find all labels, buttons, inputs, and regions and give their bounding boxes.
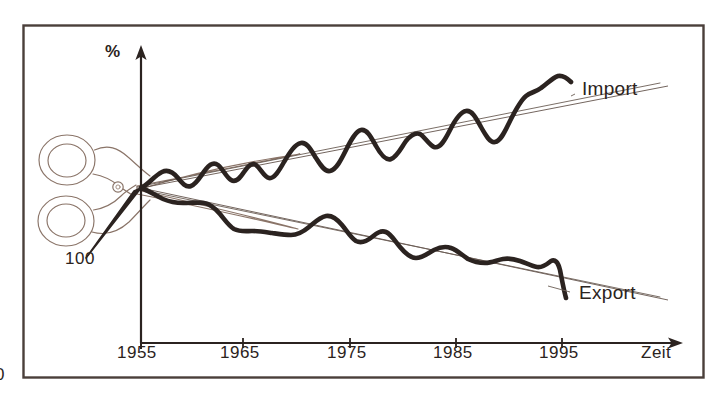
- export-curve: [141, 188, 566, 298]
- x-tick-label-1965: 1965: [220, 343, 260, 363]
- import-label-leader: [571, 94, 575, 96]
- x-axis-label: Zeit: [641, 343, 671, 363]
- x-tick-label-1955: 1955: [117, 343, 157, 363]
- trendline-group: [141, 86, 668, 300]
- figure-panel: % 1955 1965 1975 1985 1995 Zeit 100 Impo…: [0, 0, 712, 406]
- scissors-illustration: [38, 83, 660, 297]
- base-value-label: 100: [65, 249, 95, 269]
- export-label-leader: [548, 286, 570, 292]
- scissors-handle-upper-inner: [48, 144, 86, 177]
- import-curve: [141, 76, 571, 188]
- x-tick-label-1995: 1995: [539, 343, 579, 363]
- edge-fragment-label: 0: [0, 365, 4, 385]
- series-label-export: Export: [579, 282, 636, 304]
- y-axis-label: %: [105, 42, 120, 62]
- scissors-handle-lower-inner: [47, 204, 85, 237]
- scissors-pivot-screw: [113, 182, 123, 192]
- x-tick-label-1985: 1985: [433, 343, 473, 363]
- import-trendline: [141, 86, 668, 188]
- x-tick-label-1975: 1975: [327, 343, 367, 363]
- series-label-import: Import: [582, 78, 638, 100]
